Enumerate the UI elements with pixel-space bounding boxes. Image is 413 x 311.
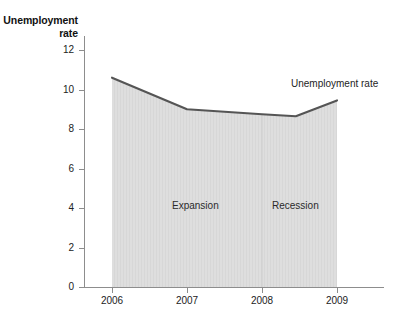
- area-fill-unemployment: [112, 78, 337, 287]
- recession-label: Recession: [272, 200, 319, 211]
- expansion-label: Expansion: [172, 200, 219, 211]
- series-plot: [0, 0, 413, 311]
- series-annotation-label: Unemployment rate: [291, 78, 378, 89]
- unemployment-rate-chart: Unemployment rate 12 10 8 6 4 2 0 2006 2…: [0, 0, 413, 311]
